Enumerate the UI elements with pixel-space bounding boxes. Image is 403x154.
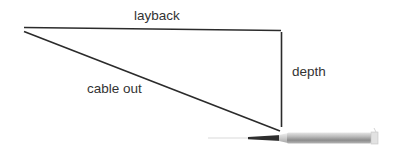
- cable-out-label: cable out: [87, 81, 142, 96]
- towed-sensor-icon: [208, 128, 378, 144]
- layback-label: layback: [134, 8, 180, 23]
- layback-line: [24, 28, 281, 31]
- depth-label: depth: [292, 64, 326, 79]
- diagram-canvas: [0, 0, 403, 154]
- cable-out-line: [24, 32, 280, 132]
